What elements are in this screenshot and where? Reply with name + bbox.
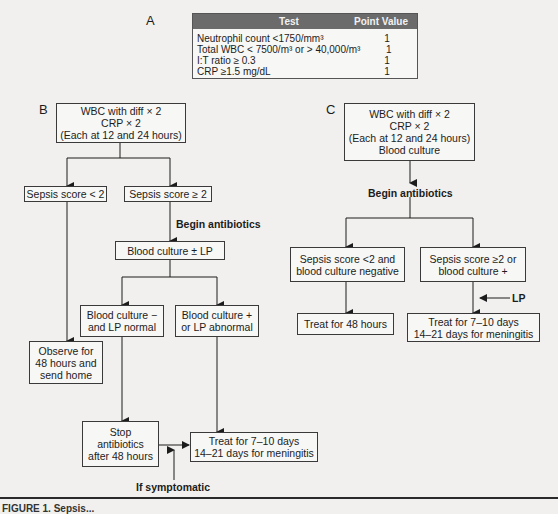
box-line: Sepsis score < 2 [27,188,105,200]
box-line: Sepsis score ≥ 2 [129,188,207,200]
panel-c-label: C [326,102,335,117]
box-line: Sepsis score <2 and [300,253,395,265]
c-begin-antibiotics-label: Begin antibiotics [368,187,453,199]
header-test: Test [193,16,345,27]
cell-test: Total WBC < 7500/m³ or > 40,000/m³ [197,44,360,55]
box-line: and LP normal [88,321,156,333]
cell-points: 1 [360,44,417,55]
box-line: Blood culture ± LP [127,245,213,257]
header-point-value: Point Value [345,16,417,27]
box-line: Blood culture [379,144,440,156]
box-line: CRP × 2 [390,120,430,132]
table-row: Total WBC < 7500/m³ or > 40,000/m³ 1 [193,44,417,55]
b-observe-box: Observe for 48 hours and send home [29,341,103,384]
c-lp-label: LP [512,292,525,304]
box-line: 14–21 days for meningitis [414,328,534,340]
cell-test: CRP ≥1.5 mg/dL [197,66,357,77]
cell-points: 1 [357,33,417,44]
cell-test: Neutrophil count <1750/mm³ [197,33,357,44]
box-line: WBC with diff × 2 [369,108,450,120]
b-culture-lp-box: Blood culture ± LP [115,241,225,260]
box-line: WBC with diff × 2 [81,105,162,117]
box-line: 14–21 days for meningitis [194,447,314,459]
b-culture-negative-box: Blood culture − and LP normal [80,305,164,337]
b-start-box: WBC with diff × 2 CRP × 2 (Each at 12 an… [56,103,186,143]
box-line: after 48 hours [88,450,153,462]
box-line: Blood culture + [182,309,252,321]
table-header: Test Point Value [193,14,417,29]
box-line: Treat for 48 hours [304,318,387,330]
table-row: CRP ≥1.5 mg/dL 1 [193,66,417,77]
b-begin-antibiotics-label: Begin antibiotics [176,218,261,230]
box-line: CRP × 2 [101,117,141,129]
box-line: 48 hours and [35,357,96,369]
b-if-symptomatic-label: If symptomatic [136,481,210,493]
box-line: Observe for [39,345,94,357]
c-treat-48-box: Treat for 48 hours [297,313,394,335]
b-treat-box: Treat for 7–10 days 14–21 days for menin… [190,432,318,462]
b-score-high-box: Sepsis score ≥ 2 [124,186,212,202]
box-line: Treat for 7–10 days [428,316,519,328]
box-line: blood culture negative [296,265,399,277]
panel-a-label: A [146,13,155,28]
figure-divider [0,497,558,499]
c-negative-box: Sepsis score <2 and blood culture negati… [290,247,405,282]
b-score-low-box: Sepsis score < 2 [24,186,107,202]
box-line: antibiotics [97,438,144,450]
b-culture-positive-box: Blood culture + or LP abnormal [175,305,259,337]
cell-test: I:T ratio ≥ 0.3 [197,55,357,66]
cell-points: 1 [357,55,417,66]
c-treat-box: Treat for 7–10 days 14–21 days for menin… [407,313,540,342]
box-line: Sepsis score ≥2 or [430,253,517,265]
box-line: or LP abnormal [181,321,253,333]
c-start-box: WBC with diff × 2 CRP × 2 (Each at 12 an… [344,103,475,161]
box-line: Blood culture − [87,309,157,321]
b-stop-antibiotics-box: Stop antibiotics after 48 hours [82,421,159,467]
box-line: (Each at 12 and 24 hours) [349,132,470,144]
figure-caption: FIGURE 1. Sepsis... [2,503,94,514]
box-line: blood culture + [438,265,507,277]
table-row: Neutrophil count <1750/mm³ 1 [193,33,417,44]
sepsis-score-table: Test Point Value Neutrophil count <1750/… [192,13,418,79]
cell-points: 1 [357,66,417,77]
table-row: I:T ratio ≥ 0.3 1 [193,55,417,66]
c-positive-box: Sepsis score ≥2 or blood culture + [420,247,526,282]
box-line: (Each at 12 and 24 hours) [60,129,181,141]
box-line: Stop [110,426,132,438]
box-line: send home [40,369,92,381]
box-line: Treat for 7–10 days [209,435,300,447]
panel-b-label: B [39,102,48,117]
